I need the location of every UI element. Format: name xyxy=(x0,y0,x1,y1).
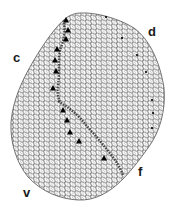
label-v: v xyxy=(23,185,31,200)
eye-diagram: c d v f xyxy=(0,0,174,209)
edge-dot xyxy=(136,54,138,56)
edge-dot xyxy=(152,112,154,114)
label-f: f xyxy=(138,164,143,179)
label-c: c xyxy=(13,50,20,65)
edge-dot xyxy=(151,99,153,101)
edge-dot xyxy=(121,37,123,39)
edge-dot xyxy=(151,127,153,129)
edge-dot xyxy=(105,16,107,18)
edge-dot xyxy=(145,71,147,73)
label-d: d xyxy=(148,24,156,39)
